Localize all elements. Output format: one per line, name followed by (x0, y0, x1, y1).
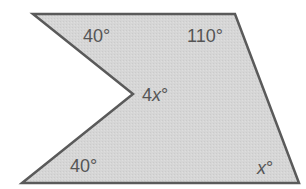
angle-label-top-right: 110° (187, 26, 223, 46)
pentagon-diagram: 40° 110° 4x° 40° x° (0, 0, 306, 189)
inner-angle-degree: ° (161, 85, 168, 105)
angle-label-bottom-right: x° (256, 158, 273, 178)
inner-angle-coefficient: 4 (142, 85, 152, 105)
angle-label-bottom-left: 40° (70, 156, 97, 176)
angle-label-inner: 4x° (142, 85, 168, 105)
bottom-right-degree: ° (266, 158, 273, 178)
angle-label-top-left: 40° (83, 26, 110, 46)
